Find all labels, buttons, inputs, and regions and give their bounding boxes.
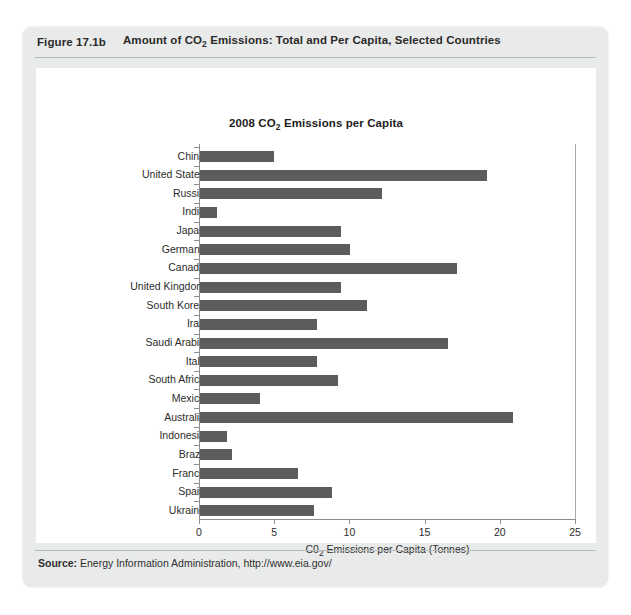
figure-title-text-pre: Amount of CO: [123, 34, 202, 46]
figure-card: Figure 17.1b Amount of CO2 Emissions: To…: [23, 27, 608, 587]
x-axis-tick: [575, 519, 576, 524]
footer-divider: [35, 550, 596, 551]
source-label: Source:: [38, 557, 77, 569]
chart-panel: 2008 CO2 Emissions per Capita ChinaUnite…: [36, 68, 596, 543]
source-text: Energy Information Administration, http:…: [77, 557, 331, 569]
source-note: Source: Energy Information Administratio…: [38, 557, 598, 569]
figure-number: Figure 17.1b: [37, 36, 106, 48]
x-axis-tick-label: 0: [196, 526, 202, 538]
x-axis-tick-label: 15: [419, 526, 431, 538]
x-axis-title-text-post: Emissions per Capita (Tonnes): [324, 543, 470, 555]
x-axis-tick: [199, 519, 200, 524]
x-axis-tick-label: 25: [569, 526, 581, 538]
x-axis-ticks-layer: 0510152025: [36, 68, 596, 543]
x-axis-tick: [500, 519, 501, 524]
x-axis-tick-label: 10: [344, 526, 356, 538]
x-axis-title-text-pre: C0: [305, 543, 318, 555]
screenshot-root: Figure 17.1b Amount of CO2 Emissions: To…: [0, 0, 631, 615]
x-axis-tick: [349, 519, 350, 524]
figure-title: Amount of CO2 Emissions: Total and Per C…: [123, 34, 501, 49]
figure-header: Figure 17.1b Amount of CO2 Emissions: To…: [23, 27, 608, 56]
x-axis-tick-label: 5: [271, 526, 277, 538]
x-axis-tick-label: 20: [494, 526, 506, 538]
x-axis-tick: [274, 519, 275, 524]
header-divider: [35, 57, 596, 58]
x-axis-tick: [425, 519, 426, 524]
figure-title-text-post: Emissions: Total and Per Capita, Selecte…: [207, 34, 501, 46]
